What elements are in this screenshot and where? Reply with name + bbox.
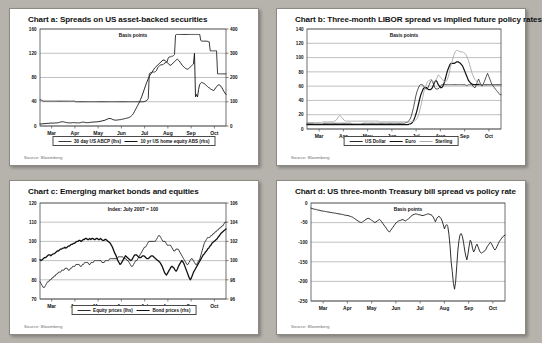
chart-d-svg: -250-200-150-100-500MarAprMayJunJulAugSe… <box>277 181 527 336</box>
svg-text:40: 40 <box>298 98 304 103</box>
svg-text:Jun: Jun <box>391 305 400 311</box>
svg-text:96: 96 <box>230 297 236 302</box>
chart-panel-d: Chart d: US three-month Treasury bill sp… <box>276 180 526 335</box>
svg-text:Apr: Apr <box>343 305 352 311</box>
svg-text:Basis points: Basis points <box>119 33 148 38</box>
legend-swatch-icon <box>390 141 403 142</box>
chart-b-legend: US Dollar Euro Sterling <box>344 136 459 146</box>
legend-item: 30 day US ABCP (lhs) <box>59 139 121 144</box>
legend-swatch-icon <box>78 310 91 311</box>
svg-text:0: 0 <box>230 124 233 129</box>
svg-text:Basis points: Basis points <box>394 207 423 212</box>
svg-text:Oct: Oct <box>210 303 219 309</box>
legend-item: Sterling <box>420 139 453 144</box>
legend-swatch-icon <box>350 141 363 142</box>
svg-text:70: 70 <box>31 297 37 302</box>
legend-item: Equity prices (lhs) <box>78 308 133 313</box>
legend-item: Euro <box>390 139 416 144</box>
svg-text:400: 400 <box>230 27 238 32</box>
svg-text:Basis points: Basis points <box>390 33 419 38</box>
legend-label: Sterling <box>435 139 452 144</box>
chart-a-source: Source: Bloomberg <box>24 155 62 160</box>
svg-text:Sep: Sep <box>464 305 473 311</box>
legend-item: US Dollar <box>350 139 386 144</box>
svg-text:120: 120 <box>296 41 304 46</box>
svg-text:Oct: Oct <box>485 133 494 139</box>
svg-text:110: 110 <box>29 220 37 225</box>
svg-text:May: May <box>367 305 377 311</box>
legend-label: Euro <box>405 139 415 144</box>
svg-text:-150: -150 <box>298 260 308 265</box>
chart-c-legend: Equity prices (lhs) Bond prices (rhs) <box>72 305 197 315</box>
svg-text:104: 104 <box>230 220 238 225</box>
svg-text:100: 100 <box>29 239 37 244</box>
svg-text:0: 0 <box>301 127 304 132</box>
legend-label: US Dollar <box>365 139 386 144</box>
svg-text:Index: July 2007 = 100: Index: July 2007 = 100 <box>108 207 159 212</box>
svg-text:Mar: Mar <box>47 303 56 309</box>
legend-swatch-icon <box>137 310 150 311</box>
legend-label: 30 day US ABCP (lhs) <box>74 139 121 144</box>
svg-text:80: 80 <box>31 75 37 80</box>
chart-b-source: Source: Bloomberg <box>291 155 329 160</box>
svg-text:140: 140 <box>296 27 304 32</box>
chart-panel-a: Chart a: Spreads on US asset-backed secu… <box>9 8 259 166</box>
svg-text:98: 98 <box>230 278 236 283</box>
svg-text:0: 0 <box>305 201 308 206</box>
chart-d-source: Source: Bloomberg <box>291 324 329 329</box>
svg-text:-100: -100 <box>298 240 308 245</box>
svg-text:Jul: Jul <box>417 305 425 311</box>
svg-text:20: 20 <box>298 112 304 117</box>
svg-text:80: 80 <box>298 70 304 75</box>
svg-text:-50: -50 <box>301 220 308 225</box>
legend-swatch-icon <box>420 141 433 142</box>
chart-a-legend: 30 day US ABCP (lhs) 10 yr US home equit… <box>53 136 216 146</box>
svg-text:100: 100 <box>230 258 238 263</box>
svg-text:40: 40 <box>31 99 37 104</box>
svg-text:100: 100 <box>230 99 238 104</box>
legend-item: Bond prices (rhs) <box>137 308 191 313</box>
svg-text:120: 120 <box>29 51 37 56</box>
legend-label: Equity prices (lhs) <box>93 308 133 313</box>
chart-d-plot: -250-200-150-100-500MarAprMayJunJulAugSe… <box>277 181 525 334</box>
svg-text:106: 106 <box>230 201 238 206</box>
svg-text:60: 60 <box>298 84 304 89</box>
chart-c-source: Source: Bloomberg <box>24 324 62 329</box>
chart-panel-b: Chart b: Three-month LIBOR spread vs imp… <box>276 8 526 166</box>
svg-text:300: 300 <box>230 51 238 56</box>
legend-label: 10 yr US home equity ABS (rhs) <box>140 139 209 144</box>
svg-text:160: 160 <box>29 27 37 32</box>
legend-swatch-icon <box>59 141 72 142</box>
svg-text:100: 100 <box>296 55 304 60</box>
svg-text:Mar: Mar <box>315 133 324 139</box>
svg-text:Mar: Mar <box>319 305 328 311</box>
legend-swatch-icon <box>125 141 138 142</box>
svg-text:-200: -200 <box>298 279 308 284</box>
svg-text:-250: -250 <box>298 299 308 304</box>
svg-text:102: 102 <box>230 239 238 244</box>
legend-item: 10 yr US home equity ABS (rhs) <box>125 139 210 144</box>
legend-label: Bond prices (rhs) <box>152 308 190 313</box>
chart-panel-c: Chart c: Emerging market bonds and equit… <box>9 180 259 335</box>
svg-text:80: 80 <box>31 278 37 283</box>
svg-text:90: 90 <box>31 258 37 263</box>
svg-text:Oct: Oct <box>489 305 498 311</box>
svg-text:Sep: Sep <box>460 133 469 139</box>
svg-text:0: 0 <box>34 124 37 129</box>
svg-text:120: 120 <box>29 201 37 206</box>
svg-text:200: 200 <box>230 75 238 80</box>
svg-text:Aug: Aug <box>440 305 450 311</box>
